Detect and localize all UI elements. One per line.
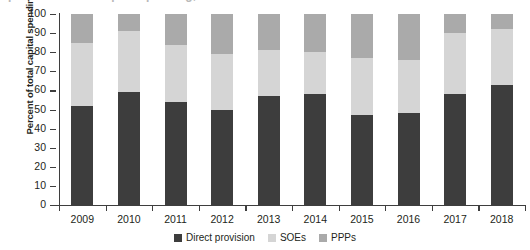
bar-2012 bbox=[211, 14, 233, 205]
bar-segment-ppps-2017 bbox=[444, 14, 466, 33]
x-tick-mark-2017 bbox=[432, 205, 433, 211]
legend-label: SOEs bbox=[280, 232, 306, 243]
y-tick-mark bbox=[50, 14, 56, 15]
legend-swatch-icon bbox=[174, 234, 182, 242]
bar-2009 bbox=[71, 14, 93, 205]
x-tick-label-2018: 2018 bbox=[472, 213, 530, 225]
y-tick-mark bbox=[50, 71, 56, 72]
bar-segment-direct-provision-2018 bbox=[491, 85, 513, 205]
bar-segment-soes-2017 bbox=[444, 33, 466, 94]
legend-label: Direct provision bbox=[186, 232, 255, 243]
bar-segment-direct-provision-2009 bbox=[71, 106, 93, 205]
y-tick-label: 60 bbox=[34, 83, 46, 95]
legend-item-ppps[interactable]: PPPs bbox=[319, 232, 356, 243]
legend-swatch-icon bbox=[319, 234, 327, 242]
chart-figure: percent of total capital spending, by pr… bbox=[0, 0, 530, 250]
y-tick-label: 100 bbox=[28, 7, 46, 19]
plot-area bbox=[59, 14, 525, 205]
bar-2015 bbox=[351, 14, 373, 205]
bar-segment-ppps-2011 bbox=[165, 14, 187, 45]
x-tick-mark-2018 bbox=[478, 205, 479, 211]
legend-item-direct-provision[interactable]: Direct provision bbox=[174, 232, 255, 243]
legend-label: PPPs bbox=[331, 232, 356, 243]
x-tick-mark-2016 bbox=[385, 205, 386, 211]
x-axis-line bbox=[51, 205, 526, 206]
bar-segment-soes-2016 bbox=[398, 60, 420, 113]
chart-legend: Direct provisionSOEsPPPs bbox=[0, 232, 530, 243]
x-tick-mark-2012 bbox=[199, 205, 200, 211]
bar-segment-soes-2018 bbox=[491, 29, 513, 84]
y-tick-mark bbox=[50, 205, 56, 206]
bar-segment-direct-provision-2013 bbox=[258, 96, 280, 205]
x-tick-mark-2010 bbox=[106, 205, 107, 211]
y-tick-mark bbox=[50, 186, 56, 187]
bar-segment-ppps-2016 bbox=[398, 14, 420, 60]
bar-segment-soes-2014 bbox=[304, 52, 326, 94]
bar-segment-ppps-2013 bbox=[258, 14, 280, 50]
y-tick-label: 0 bbox=[40, 198, 46, 210]
y-tick-label: 70 bbox=[34, 64, 46, 76]
bar-segment-soes-2009 bbox=[71, 43, 93, 106]
y-tick-mark bbox=[50, 129, 56, 130]
bar-segment-soes-2015 bbox=[351, 58, 373, 115]
bar-segment-direct-provision-2010 bbox=[118, 92, 140, 205]
bar-2018 bbox=[491, 14, 513, 205]
y-tick-mark bbox=[50, 90, 56, 91]
bar-2016 bbox=[398, 14, 420, 205]
bar-segment-ppps-2015 bbox=[351, 14, 373, 58]
y-tick-label: 90 bbox=[34, 26, 46, 38]
bar-segment-ppps-2009 bbox=[71, 14, 93, 43]
bar-segment-soes-2013 bbox=[258, 50, 280, 96]
bar-2017 bbox=[444, 14, 466, 205]
x-tick-mark-2014 bbox=[292, 205, 293, 211]
y-axis-title: Percent of total capital spending bbox=[24, 0, 35, 159]
bar-segment-soes-2010 bbox=[118, 31, 140, 92]
y-tick-mark bbox=[50, 52, 56, 53]
x-tick-mark-2013 bbox=[245, 205, 246, 211]
bar-segment-direct-provision-2017 bbox=[444, 94, 466, 205]
y-tick-label: 80 bbox=[34, 45, 46, 57]
bar-segment-soes-2011 bbox=[165, 45, 187, 102]
y-tick-label: 10 bbox=[34, 179, 46, 191]
y-tick-label: 30 bbox=[34, 141, 46, 153]
bar-segment-ppps-2010 bbox=[118, 14, 140, 31]
x-tick-mark-end bbox=[525, 205, 526, 211]
y-tick-mark bbox=[50, 148, 56, 149]
bar-segment-direct-provision-2015 bbox=[351, 115, 373, 205]
bar-2013 bbox=[258, 14, 280, 205]
x-tick-mark-2015 bbox=[339, 205, 340, 211]
x-tick-mark-2011 bbox=[152, 205, 153, 211]
bar-segment-direct-provision-2014 bbox=[304, 94, 326, 205]
cropped-title-text: percent of total capital spending, by pr… bbox=[8, 0, 200, 2]
legend-swatch-icon bbox=[268, 234, 276, 242]
y-tick-label: 20 bbox=[34, 160, 46, 172]
y-tick-label: 50 bbox=[34, 103, 46, 115]
bar-segment-direct-provision-2012 bbox=[211, 110, 233, 206]
y-tick-label: 40 bbox=[34, 122, 46, 134]
bar-2014 bbox=[304, 14, 326, 205]
bar-2011 bbox=[165, 14, 187, 205]
y-tick-mark bbox=[50, 33, 56, 34]
bar-segment-direct-provision-2016 bbox=[398, 113, 420, 205]
bar-segment-soes-2012 bbox=[211, 54, 233, 109]
bar-segment-ppps-2014 bbox=[304, 14, 326, 52]
bar-segment-ppps-2012 bbox=[211, 14, 233, 54]
y-tick-mark bbox=[50, 167, 56, 168]
y-tick-mark bbox=[50, 110, 56, 111]
bar-segment-ppps-2018 bbox=[491, 14, 513, 29]
bar-2010 bbox=[118, 14, 140, 205]
legend-item-soes[interactable]: SOEs bbox=[268, 232, 306, 243]
bar-segment-direct-provision-2011 bbox=[165, 102, 187, 205]
x-tick-mark-2009 bbox=[59, 205, 60, 211]
